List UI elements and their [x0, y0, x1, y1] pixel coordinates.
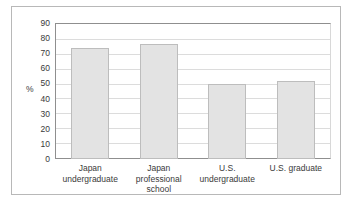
- y-axis-tick-label: 50: [41, 79, 50, 88]
- bar: [277, 81, 315, 159]
- bars-container: [56, 24, 330, 159]
- y-axis-tick-label: 60: [41, 64, 50, 73]
- y-axis-tick-label: 70: [41, 49, 50, 58]
- x-axis-tick-label: Japan professional school: [125, 163, 194, 195]
- y-axis-tick-label: 0: [45, 155, 50, 164]
- bar: [71, 48, 109, 159]
- x-axis-tick-labels: Japan undergraduateJapan professional sc…: [56, 163, 330, 195]
- y-axis-tick-label: 80: [41, 34, 50, 43]
- y-axis-tick-label: 10: [41, 140, 50, 149]
- bar-chart-figure: % 9080706050403020100 Japan undergraduat…: [11, 6, 341, 195]
- x-axis-tick-label: U.S. undergraduate: [193, 163, 262, 195]
- bar-slot: [262, 24, 331, 159]
- y-axis-tick-label: 20: [41, 125, 50, 134]
- y-axis-tick-label: 30: [41, 109, 50, 118]
- x-axis-tick-label: U.S. graduate: [262, 163, 331, 195]
- bar-slot: [56, 24, 125, 159]
- bar-slot: [125, 24, 194, 159]
- bar: [140, 44, 178, 160]
- bar: [208, 84, 246, 159]
- x-axis-tick-label: Japan undergraduate: [56, 163, 125, 195]
- y-axis-tick-label: 90: [41, 19, 50, 28]
- y-axis-tick-label: 40: [41, 94, 50, 103]
- bar-slot: [193, 24, 262, 159]
- y-axis-tick-labels: 9080706050403020100: [12, 23, 53, 159]
